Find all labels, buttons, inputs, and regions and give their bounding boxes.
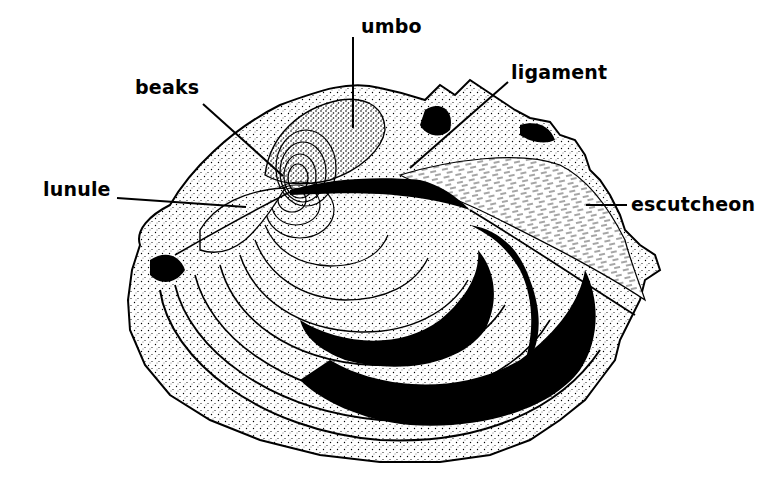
- label-umbo: umbo: [361, 17, 422, 36]
- label-ligament: ligament: [511, 63, 607, 82]
- shell-illustration: [0, 0, 784, 491]
- label-lunule: lunule: [43, 180, 111, 199]
- label-escutcheon: escutcheon: [631, 195, 755, 214]
- label-beaks: beaks: [135, 78, 199, 97]
- shell-anatomy-diagram: umbo beaks ligament lunule escutcheon: [0, 0, 784, 491]
